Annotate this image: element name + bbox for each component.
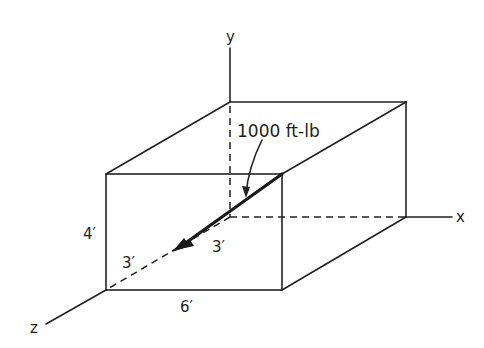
- y-axis-label: y: [226, 28, 235, 46]
- label-leader: [246, 140, 262, 194]
- box-diagram: y x z 4′ 6′ 3′ 3′ 1000 ft-lb: [0, 0, 484, 348]
- edge-top-left: [106, 102, 230, 174]
- z-axis: [46, 290, 106, 324]
- width-label: 6′: [180, 298, 194, 316]
- z-axis-label: z: [30, 319, 38, 337]
- depth-back-label: 3′: [212, 238, 226, 256]
- moment-vector: [180, 174, 282, 247]
- depth-front-label: 3′: [122, 254, 136, 272]
- diagram-canvas: y x z 4′ 6′ 3′ 3′ 1000 ft-lb: [0, 0, 484, 348]
- height-label: 4′: [83, 225, 97, 243]
- x-axis-label: x: [456, 208, 465, 226]
- edge-bottom-right: [282, 217, 406, 290]
- moment-label: 1000 ft-lb: [237, 121, 320, 141]
